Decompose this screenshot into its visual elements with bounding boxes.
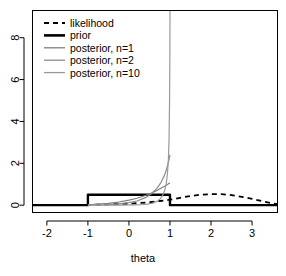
x-axis-title: theta (131, 252, 156, 264)
x-tick-label: 0 (126, 227, 132, 239)
legend-label: posterior, n=1 (70, 42, 134, 54)
y-tick-label: 4 (9, 118, 21, 124)
y-tick-label: 0 (9, 202, 21, 208)
x-tick-label: -1 (83, 227, 93, 239)
y-tick-label: 8 (9, 35, 21, 41)
x-tick-label: 1 (167, 227, 173, 239)
chart-figure: -2-10123 02468 theta likelihoodpriorpost… (0, 0, 286, 276)
y-tick-label: 6 (9, 77, 21, 83)
legend-label: posterior, n=10 (70, 67, 140, 79)
bayesian-density-plot: -2-10123 02468 theta likelihoodpriorpost… (0, 0, 286, 276)
legend-label: posterior, n=2 (70, 54, 134, 66)
legend-label: prior (70, 29, 92, 41)
x-tick-label: -2 (42, 227, 52, 239)
y-tick-label: 2 (9, 160, 21, 166)
legend-label: likelihood (70, 17, 114, 29)
x-tick-label: 3 (249, 227, 255, 239)
x-tick-label: 2 (208, 227, 214, 239)
